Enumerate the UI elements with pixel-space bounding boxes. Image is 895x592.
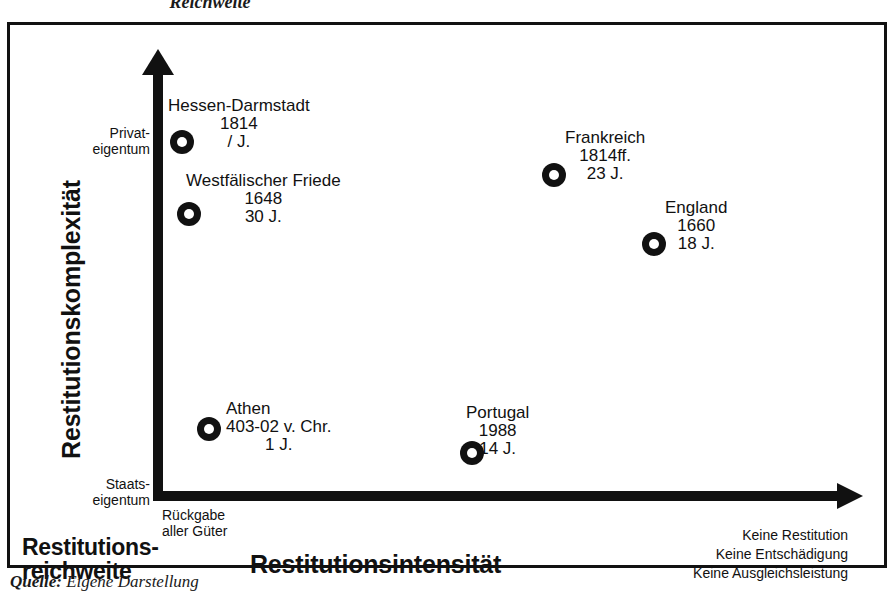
data-point-duration: / J. [168, 133, 310, 151]
data-point-name: England [665, 199, 727, 217]
data-point-marker[interactable] [197, 417, 221, 441]
data-point-marker[interactable] [542, 163, 566, 187]
x-axis-title: Restitutionsintensität [250, 550, 501, 579]
data-point-duration: 14 J. [466, 440, 529, 458]
y-axis-bottom-scale-label-line2: eigentum [72, 493, 150, 509]
y-axis-title: Restitutionskomplexität [57, 155, 86, 485]
x-axis-end-scale-label: Keine Restitution Keine Entschädigung Ke… [630, 526, 848, 583]
data-point-name: Portugal [466, 404, 529, 422]
data-point-label: Athen403-02 v. Chr.1 J. [226, 400, 332, 455]
x-axis-end-scale-label-line3: Keine Ausgleichsleistung [630, 564, 848, 583]
y-axis-top-scale-label: Privat- eigentum [72, 126, 150, 157]
x-axis-origin-scale-label: Rückgabe aller Güter [162, 508, 262, 539]
x-axis-origin-scale-label-line2: aller Güter [162, 524, 262, 540]
x-axis-origin-scale-label-line1: Rückgabe [162, 508, 262, 524]
figure-source-caption-text: Eigene Darstellung [62, 572, 199, 591]
chart-frame: Restitutionskomplexität Restitutionsinte… [7, 22, 887, 568]
x-axis-end-scale-label-line2: Keine Entschädigung [630, 545, 848, 564]
data-point-name: Hessen-Darmstadt [168, 97, 310, 115]
data-point-year: 1814 [168, 115, 310, 133]
figure-source-caption: Quelle: Eigene Darstellung [10, 572, 199, 592]
corner-axis-title-line1: Restitutions- [22, 535, 162, 559]
y-axis-line [153, 71, 163, 496]
y-axis-bottom-scale-label-line1: Staats- [72, 477, 150, 493]
data-point-duration: 30 J. [186, 208, 341, 226]
data-point-duration: 23 J. [565, 165, 645, 183]
data-point-label: Frankreich1814ff.23 J. [565, 129, 645, 184]
x-axis-line [153, 491, 843, 501]
data-point-name: Westfälischer Friede [186, 172, 341, 190]
data-point-duration: 1 J. [226, 436, 332, 454]
data-point-duration: 18 J. [665, 235, 727, 253]
x-axis-arrowhead-icon [837, 483, 863, 509]
figure-source-caption-label: Quelle: [10, 572, 62, 591]
y-axis-bottom-scale-label: Staats- eigentum [72, 477, 150, 508]
data-point-year: 1814ff. [565, 147, 645, 165]
y-axis-top-scale-label-line2: eigentum [72, 142, 150, 158]
data-point-marker[interactable] [642, 232, 666, 256]
data-point-label: Westfälischer Friede164830 J. [186, 172, 341, 227]
data-point-name: Athen [226, 400, 332, 418]
y-axis-top-scale-label-line1: Privat- [72, 126, 150, 142]
data-point-label: England166018 J. [665, 199, 727, 254]
x-axis-end-scale-label-line1: Keine Restitution [630, 526, 848, 545]
y-axis-arrowhead-icon [142, 49, 174, 75]
data-point-year: 1648 [186, 190, 341, 208]
data-point-year: 1660 [665, 217, 727, 235]
figure-top-caption: Reichweite [0, 0, 420, 13]
data-point-year: 1988 [466, 422, 529, 440]
data-point-label: Hessen-Darmstadt1814/ J. [168, 97, 310, 152]
data-point-name: Frankreich [565, 129, 645, 147]
data-point-label: Portugal198814 J. [466, 404, 529, 459]
data-point-year: 403-02 v. Chr. [226, 418, 332, 436]
